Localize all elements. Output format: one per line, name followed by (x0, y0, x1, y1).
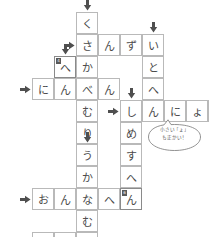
cell-c3r0[interactable]: く (76, 12, 98, 34)
cell-letter: ん (126, 194, 137, 205)
cell-letter: ん (148, 106, 159, 117)
hint-line-2: も正かい！ (150, 134, 199, 142)
cell-letter: へ (126, 172, 137, 183)
cell-letter: な (82, 194, 93, 205)
cell-c1r3[interactable]: に (32, 78, 54, 100)
cell-letter: さ (82, 40, 93, 51)
cell-c1r8[interactable]: お (32, 188, 54, 210)
arrow-down-shimesuhen (127, 88, 136, 99)
cell-c4r8[interactable]: へ (98, 188, 120, 210)
cell-letter: す (126, 150, 137, 161)
cell-letter: へ (104, 194, 115, 205)
cell-c5r5[interactable]: め (120, 122, 142, 144)
cell-c3r2[interactable]: か (76, 56, 98, 78)
cell-letter: に (170, 106, 181, 117)
cell-c1r10[interactable]: つ (32, 232, 54, 237)
cell-c5r6[interactable]: す (120, 144, 142, 166)
cell-c5r1[interactable]: ず (120, 34, 142, 56)
cell-letter: う (82, 150, 93, 161)
arrow-down-hen (61, 44, 70, 55)
arrow-right-ninben (20, 85, 31, 94)
hint-line-1: 小さい「ょ」 (150, 126, 199, 134)
cell-letter: か (82, 172, 93, 183)
cell-c5r4[interactable]: し (120, 100, 142, 122)
cell-c9r4[interactable]: う (208, 100, 209, 122)
cell-c3r8[interactable]: な (76, 188, 98, 210)
cell-letter: ん (60, 194, 71, 205)
cell-letter: か (82, 62, 93, 73)
cell-c3r10[interactable]: り (76, 232, 98, 237)
arrow-down-ukanmuri (83, 132, 92, 143)
cell-c4r3[interactable]: ん (98, 78, 120, 100)
cell-letter: い (148, 40, 159, 51)
cell-c2r3[interactable]: ん (54, 78, 76, 100)
cell-letter: ず (126, 40, 137, 51)
cell-c5r8[interactable]: 6ん (120, 188, 142, 210)
arrow-down-kusakanmuri (83, 0, 92, 11)
cell-c3r1[interactable]: さ (76, 34, 98, 56)
cell-c3r4[interactable]: む (76, 100, 98, 122)
cell-letter: し (126, 106, 137, 117)
hint-speech-bubble: 小さい「ょ」 も正かい！ (146, 119, 203, 153)
cell-letter: べ (82, 84, 93, 95)
cell-c3r9[interactable]: む (76, 210, 98, 232)
arrow-right-shinnyou (108, 107, 119, 116)
cell-c6r1[interactable]: い (142, 34, 164, 56)
arrow-down-itohen (149, 22, 158, 33)
cell-letter: め (126, 128, 137, 139)
cell-c6r2[interactable]: と (142, 56, 164, 78)
cell-letter: む (82, 106, 93, 117)
cell-letter: ん (104, 84, 115, 95)
cell-c3r3[interactable]: べ (76, 78, 98, 100)
cell-letter: へ (148, 84, 159, 95)
hint-text: 小さい「ょ」 も正かい！ (150, 126, 199, 142)
cell-letter: く (82, 18, 93, 29)
cell-c5r7[interactable]: へ (120, 166, 142, 188)
cell-c2r2[interactable]: 4へ (54, 56, 76, 78)
cell-letter: お (38, 194, 49, 205)
cell-letter: む (82, 216, 93, 227)
cell-letter: ん (104, 40, 115, 51)
cell-c2r10[interactable]: く (54, 232, 76, 237)
cell-c2r8[interactable]: ん (54, 188, 76, 210)
cell-c3r6[interactable]: う (76, 144, 98, 166)
cell-c6r3[interactable]: へ (142, 78, 164, 100)
arrow-right-onnahen (20, 195, 31, 204)
cell-c3r7[interactable]: か (76, 166, 98, 188)
cell-letter: へ (60, 62, 71, 73)
cell-letter: ん (60, 84, 71, 95)
cell-letter: に (38, 84, 49, 95)
cell-letter: ょ (192, 106, 203, 117)
cell-c4r1[interactable]: ん (98, 34, 120, 56)
cell-letter: と (148, 62, 159, 73)
